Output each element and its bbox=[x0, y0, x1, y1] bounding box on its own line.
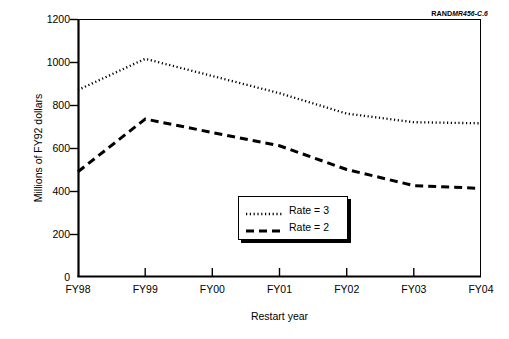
x-tick-label-fy03: FY03 bbox=[391, 283, 437, 295]
x-axis-tick-labels: FY98 FY99 FY00 FY01 FY02 FY03 FY04 bbox=[0, 0, 509, 339]
legend-label-rate-2: Rate = 2 bbox=[289, 221, 329, 233]
x-axis-title: Restart year bbox=[78, 310, 481, 322]
legend-label-rate-3: Rate = 3 bbox=[289, 204, 329, 216]
chart-figure: RANDMR456-C.6 bbox=[0, 0, 509, 339]
dashed-line-swatch bbox=[246, 222, 284, 232]
chart-legend: Rate = 3 Rate = 2 bbox=[238, 196, 348, 240]
x-tick-label-fy00: FY00 bbox=[189, 283, 235, 295]
y-axis-title: Millions of FY92 dollars bbox=[30, 19, 46, 277]
legend-item-rate-3: Rate = 3 bbox=[246, 202, 344, 218]
x-tick-label-fy99: FY99 bbox=[122, 283, 168, 295]
x-tick-label-fy04: FY04 bbox=[458, 283, 504, 295]
x-tick-label-fy98: FY98 bbox=[55, 283, 101, 295]
x-tick-label-fy02: FY02 bbox=[324, 283, 370, 295]
legend-item-rate-2: Rate = 2 bbox=[246, 219, 344, 235]
x-tick-label-fy01: FY01 bbox=[257, 283, 303, 295]
dotted-line-swatch bbox=[246, 205, 284, 215]
